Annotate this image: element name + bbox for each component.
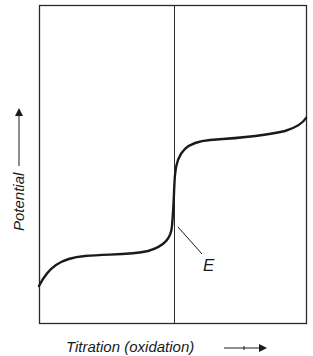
plot-frame [40, 6, 307, 324]
titration-curve-figure: E Titration (oxidation) Potential [0, 0, 313, 356]
diagram-canvas: E Titration (oxidation) Potential [0, 0, 313, 356]
titration-curve [39, 118, 306, 286]
y-axis-label: Potential [10, 172, 27, 231]
equivalence-point-label: E [203, 256, 215, 275]
equivalence-point-leader [178, 227, 202, 254]
x-axis-label: Titration (oxidation) [66, 338, 194, 355]
